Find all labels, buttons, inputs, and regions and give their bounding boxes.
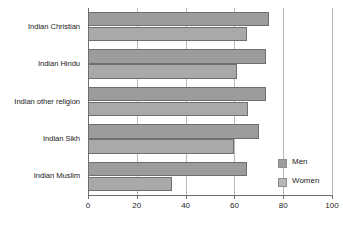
x-tick-mark [88,195,89,199]
bar-men [88,12,269,27]
x-tick-mark [186,195,187,199]
x-axis-line [88,195,333,196]
category-label: Indian other religion [0,97,80,106]
x-tick-label: 60 [214,201,254,210]
x-tick-label: 80 [263,201,303,210]
bar-women [88,177,172,192]
bar-men [88,87,266,102]
x-tick-label: 100 [312,201,343,210]
gridline-100 [332,8,333,195]
category-label: Indian Hindu [0,59,80,68]
legend-label: Women [292,176,319,185]
x-tick-label: 40 [166,201,206,210]
x-tick-mark [137,195,138,199]
x-tick-mark [332,195,333,199]
legend-swatch-women [278,178,287,187]
bar-women [88,27,247,42]
category-label: Indian Muslim [0,171,80,180]
bar-women [88,139,234,154]
x-tick-mark [234,195,235,199]
bar-men [88,49,266,64]
bar-women [88,64,237,79]
x-tick-label: 0 [68,201,108,210]
bar-men [88,162,247,177]
x-tick-label: 20 [117,201,157,210]
category-label: Indian Christian [0,22,80,31]
plot-area [88,8,332,195]
bar-men [88,124,259,139]
category-axis: Indian ChristianIndian HinduIndian other… [0,8,84,195]
bar-women [88,102,248,117]
legend-swatch-men [278,159,287,168]
category-label: Indian Sikh [0,134,80,143]
x-tick-mark [283,195,284,199]
legend-label: Men [292,157,308,166]
